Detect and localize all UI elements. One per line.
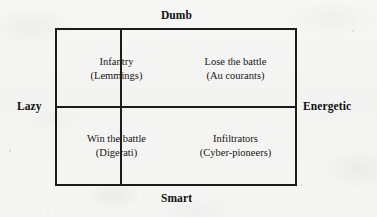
quadrant-title: Infiltrators — [213, 132, 258, 146]
quadrant-title: Lose the battle — [205, 55, 267, 69]
quadrant-subtitle: (Digerati) — [96, 146, 137, 160]
quadrant-bottom-left: Win the battle (Digerati) — [57, 107, 176, 184]
matrix-horizontal-divider — [55, 106, 297, 108]
quadrant-bottom-right: Infiltrators (Cyber-pioneers) — [176, 107, 295, 184]
quadrant-top-left: Infantry (Lemmings) — [57, 30, 176, 107]
quadrant-top-right: Lose the battle (Au courants) — [176, 30, 295, 107]
quadrant-subtitle: (Cyber-pioneers) — [200, 146, 272, 160]
quadrant-subtitle: (Au courants) — [206, 69, 264, 83]
axis-label-right: Energetic — [303, 100, 351, 112]
quadrant-title: Win the battle — [87, 132, 146, 146]
matrix-diagram: Dumb Lazy Energetic Smart Infantry (Lemm… — [0, 0, 377, 217]
axis-label-top: Dumb — [0, 9, 365, 21]
axis-label-bottom: Smart — [0, 192, 365, 204]
axis-label-left: Lazy — [17, 100, 42, 112]
quadrant-title: Infantry — [100, 55, 134, 69]
quadrant-subtitle: (Lemmings) — [91, 69, 143, 83]
